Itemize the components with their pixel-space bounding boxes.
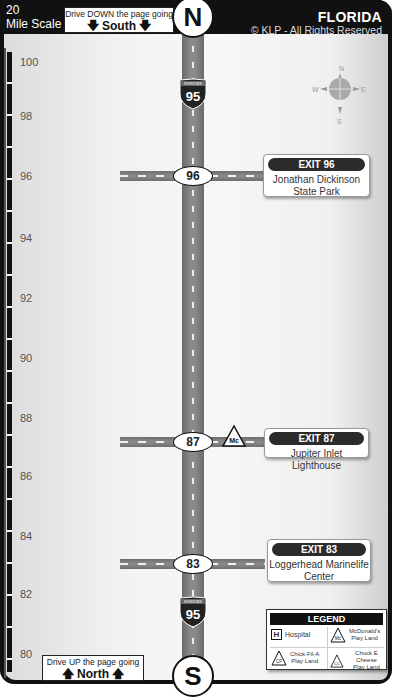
scale-tick-label: 98 xyxy=(20,110,32,122)
svg-text:CC: CC xyxy=(334,661,340,666)
svg-text:W: W xyxy=(312,86,319,93)
svg-text:Mc: Mc xyxy=(335,636,342,641)
legend-label: Chuck E CheesePlay Land xyxy=(347,650,386,671)
scale-value: 20 xyxy=(6,3,61,17)
state-title: FLORIDA xyxy=(318,9,382,25)
legend-item-hospital: H Hospital xyxy=(271,629,310,640)
scale-tick-label: 92 xyxy=(20,292,32,304)
svg-text:E: E xyxy=(361,86,366,93)
scale-tick-label: 96 xyxy=(20,170,32,182)
scale-bar-edge xyxy=(4,48,6,678)
north-direction-box: Drive UP the page going 🡅 North 🡅 xyxy=(42,655,144,681)
scale-tick-label: 86 xyxy=(20,470,32,482)
scale-tick-label: 100 xyxy=(20,56,38,68)
legend-label-line: Play Land xyxy=(351,635,378,641)
south-direction-box: Drive DOWN the page going 🡇 South 🡇 xyxy=(64,7,174,33)
legend-label-line: Play Land xyxy=(353,664,380,670)
exit-87-name: Jupiter Inlet Lighthouse xyxy=(265,448,368,472)
scale-tick-label: 80 xyxy=(20,648,32,660)
scale-tick-label: 94 xyxy=(20,232,32,244)
south-direction-label: 🡇 South 🡇 xyxy=(65,20,173,32)
arrow-down-icon: 🡇 xyxy=(139,19,151,33)
legend-box: LEGEND H Hospital Mc McDonald'sPlay Land… xyxy=(266,609,387,670)
exit-87-marker[interactable]: 87 xyxy=(173,432,213,452)
svg-text:INTERSTATE: INTERSTATE xyxy=(184,600,202,604)
mcdonalds-playland-icon[interactable]: Mc xyxy=(221,424,247,448)
hospital-icon: H xyxy=(271,629,282,640)
scale-tick-label: 82 xyxy=(20,588,32,600)
exit-87-tag: EXIT 87 xyxy=(269,432,364,445)
south-marker: S xyxy=(172,655,214,697)
scale-tick-label: 90 xyxy=(20,352,32,364)
exit-83-card[interactable]: EXIT 83 Loggerhead Marinelife Center xyxy=(267,539,371,582)
svg-text:S: S xyxy=(337,118,342,125)
exit-96-marker[interactable]: 96 xyxy=(173,166,213,186)
mile-scale-bar xyxy=(7,52,12,672)
legend-item-chickfila: CF Chick-Fil-APlay Land xyxy=(271,650,319,666)
legend-label-line: Chuck E Cheese xyxy=(355,650,378,663)
exit-83-tag: EXIT 83 xyxy=(272,543,366,556)
svg-text:CF: CF xyxy=(276,659,282,664)
legend-item-chuckecheese: CC Chuck E CheesePlay Land xyxy=(330,650,386,671)
exit-83-marker[interactable]: 83 xyxy=(173,554,213,574)
exit-83-name-2: Center xyxy=(268,571,370,583)
legend-label: Chick-Fil-APlay Land xyxy=(290,651,319,665)
legend-label: Hospital xyxy=(285,631,310,638)
interstate-95-road xyxy=(182,30,204,670)
legend-title: LEGEND xyxy=(270,613,383,625)
scale-tick-label: 88 xyxy=(20,412,32,424)
legend-label: McDonald'sPlay Land xyxy=(349,628,380,642)
scale-unit: Mile Scale xyxy=(6,17,61,31)
chickfila-icon: CF xyxy=(271,650,287,666)
north-label: North xyxy=(77,667,109,681)
exit-96-card[interactable]: EXIT 96 Jonathan Dickinson State Park xyxy=(263,154,370,197)
compass-rose-icon: N S E W xyxy=(300,62,370,126)
exit-96-name: Jonathan Dickinson xyxy=(264,174,369,186)
legend-divider xyxy=(270,647,384,648)
mile-scale-label: 20 Mile Scale xyxy=(6,3,61,31)
south-label: South xyxy=(102,19,136,33)
arrow-up-icon: 🡅 xyxy=(62,667,74,681)
legend-label-line: Play Land xyxy=(291,658,318,664)
north-direction-label: 🡅 North 🡅 xyxy=(43,668,143,680)
scale-tick-label: 84 xyxy=(20,530,32,542)
mcdonalds-icon: Mc xyxy=(330,627,346,643)
legend-divider xyxy=(327,627,328,669)
arrow-down-icon: 🡇 xyxy=(87,19,99,33)
svg-text:Mc: Mc xyxy=(229,437,239,444)
legend-label-line: McDonald's xyxy=(349,628,380,634)
exit-96-tag: EXIT 96 xyxy=(268,158,365,171)
exit-83-name: Loggerhead Marinelife xyxy=(268,559,370,571)
svg-text:INTERSTATE: INTERSTATE xyxy=(184,82,202,86)
arrow-up-icon: 🡅 xyxy=(112,667,124,681)
interstate-95-shield-icon: INTERSTATE 95 xyxy=(178,596,208,628)
exit-87-card[interactable]: EXIT 87 Jupiter Inlet Lighthouse xyxy=(264,428,369,458)
svg-text:N: N xyxy=(339,65,344,72)
interstate-95-shield-icon: INTERSTATE 95 xyxy=(178,78,208,110)
svg-text:95: 95 xyxy=(186,89,200,104)
chuckecheese-icon: CC xyxy=(330,653,344,669)
legend-item-mcdonalds: Mc McDonald'sPlay Land xyxy=(330,627,380,643)
exit-96-name-2: State Park xyxy=(264,186,369,198)
svg-text:95: 95 xyxy=(186,607,200,622)
legend-label-line: Chick-Fil-A xyxy=(290,651,319,657)
